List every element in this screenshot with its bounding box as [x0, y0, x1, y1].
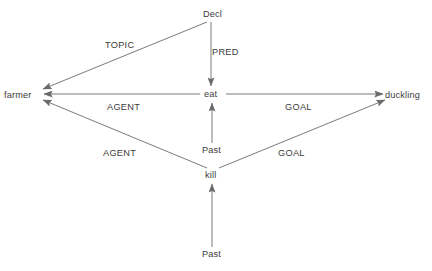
- node-farmer: farmer: [4, 90, 31, 100]
- edge-label-topic: TOPIC: [105, 40, 134, 50]
- edge-decl-farmer: [43, 22, 207, 89]
- node-eat: eat: [204, 89, 217, 99]
- node-duckling: duckling: [385, 90, 420, 100]
- diagram-edges-layer: [0, 0, 432, 271]
- edge-label-pred: PRED: [212, 47, 239, 57]
- edge-label-goal-kill: GOAL: [278, 148, 305, 158]
- edge-label-agent-eat: AGENT: [107, 102, 140, 112]
- semantic-network-diagram: Decl eat farmer duckling Past kill Past …: [0, 0, 432, 271]
- node-past-kill: Past: [202, 249, 221, 259]
- edge-label-goal-eat: GOAL: [285, 102, 312, 112]
- node-kill: kill: [205, 170, 216, 180]
- node-decl: Decl: [203, 9, 222, 19]
- node-past-eat: Past: [202, 145, 221, 155]
- edge-label-agent-kill: AGENT: [103, 148, 136, 158]
